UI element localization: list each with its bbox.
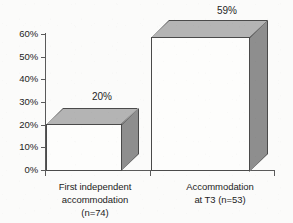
bar-2-value-label: 59% [217,6,237,16]
bar-2-top-face [152,21,267,37]
x-category-label-1-line-1: First independent [35,180,155,193]
y-tick-label-30: 30% [4,97,38,107]
bar-chart-figure: 60% 50% 40% 30% 20% 10% 0% 20% [0,0,293,223]
y-tick-label-60: 60% [4,29,38,39]
y-tick-label-40: 40% [4,74,38,84]
bar-1-value-label: 20% [92,92,112,102]
bar-2-side-face [250,21,267,171]
plot-area: 60% 50% 40% 30% 20% 10% 0% 20% [0,0,293,223]
y-tick-label-50: 50% [4,52,38,62]
x-category-label-2-line-2: at T3 (n=53) [155,193,285,206]
x-category-label-1: First independent accommodation (n=74) [35,180,155,219]
bar-2-front-face [151,37,250,171]
bar-1-front-face [46,124,122,171]
y-tick-50 [41,57,46,58]
x-category-label-2-line-1: Accommodation [155,180,285,193]
x-tick-middle [150,171,151,176]
y-tick-30 [41,102,46,103]
y-tick-60 [41,34,46,35]
y-tick-40 [41,79,46,80]
x-category-label-2: Accommodation at T3 (n=53) [155,180,285,206]
x-category-label-1-line-3: (n=74) [35,206,155,219]
y-tick-label-20: 20% [4,120,38,130]
x-tick-left [45,171,46,176]
x-category-label-1-line-2: accommodation [35,193,155,206]
y-tick-label-0: 0% [4,165,38,175]
y-tick-label-10: 10% [4,142,38,152]
x-tick-right [274,171,275,176]
